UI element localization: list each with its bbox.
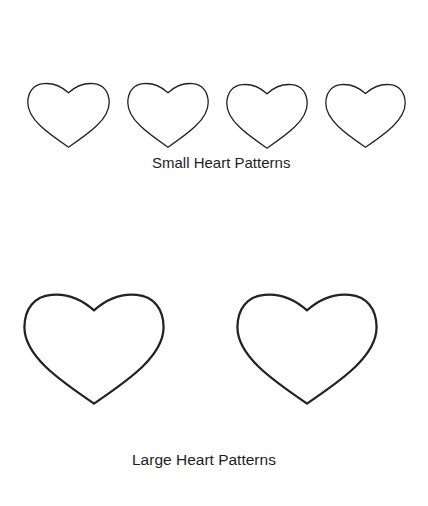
large-heart-outline-icon [23,292,165,405]
large-hearts-caption: Large Heart Patterns [132,451,276,469]
small-hearts-caption: Small Heart Patterns [152,154,290,171]
small-heart-outline-icon [226,83,308,149]
small-heart-outline-icon [325,83,406,148]
small-heart-outline-icon [27,82,110,148]
large-heart-outline-icon [236,292,378,405]
small-heart-outline-icon [127,82,209,148]
